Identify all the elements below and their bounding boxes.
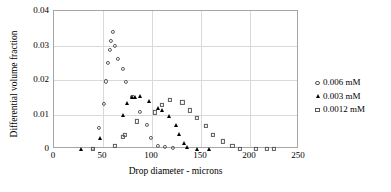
data-point [91,147,95,151]
data-point [133,95,137,99]
data-point [79,147,83,151]
gridline-vertical [250,11,251,147]
y-axis-title: Differential volume fraction [9,14,19,154]
gridline-vertical [201,11,202,147]
data-point [156,143,160,147]
scatter-chart: 00.010.020.030.04 050100150200250 Drop d… [0,0,391,192]
data-point [220,139,224,143]
data-point [170,146,174,150]
data-point [113,144,117,148]
data-point [121,113,125,117]
data-point [180,100,184,104]
data-point [168,98,172,102]
data-point [271,147,275,151]
data-point [160,103,164,107]
data-point [108,48,112,52]
chart-legend: 0.006 mM0.003 mM0.0012 mM [312,76,365,117]
data-point [125,101,129,105]
x-axis-tick-label: 150 [193,151,207,160]
data-point [185,145,189,149]
legend-item[interactable]: 0.006 mM [312,76,365,90]
legend-item-label: 0.006 mM [323,76,361,90]
data-point [123,80,127,84]
data-point [153,110,157,114]
data-point [174,123,178,127]
gridline-horizontal [54,46,297,47]
data-point [167,114,171,118]
x-axis-tick-label: 200 [242,151,256,160]
data-point [147,99,151,103]
legend-item-label: 0.003 mM [323,90,361,104]
data-point [177,132,181,136]
data-point [163,145,167,149]
data-point [230,144,234,148]
data-point [138,94,142,98]
data-point [98,136,102,140]
x-axis-tick-label: 50 [98,151,107,160]
data-point [111,30,115,34]
data-point [116,57,120,61]
data-point [135,119,139,123]
data-point [122,133,126,137]
data-point [102,102,106,106]
data-point [211,133,215,137]
x-axis-tick-label: 100 [144,151,158,160]
legend-item[interactable]: 0.0012 mM [312,103,365,117]
data-point [138,110,142,114]
x-axis-tick-label: 250 [291,151,305,160]
data-point [113,44,117,48]
plot-area [53,10,298,148]
data-point [97,126,101,130]
y-axis-tick-label: 0.04 [33,6,49,15]
gridline-horizontal [54,115,297,116]
gridline-vertical [152,11,153,147]
data-point [109,39,113,43]
y-axis-tick-label: 0.02 [33,75,49,84]
data-point [104,79,108,83]
data-point [207,147,211,151]
data-point [160,108,164,112]
legend-item-label: 0.0012 mM [323,103,365,117]
data-point [106,61,110,65]
data-point [145,123,149,127]
data-point [188,108,192,112]
y-axis-tick-label: 0 [45,144,50,153]
legend-item[interactable]: 0.003 mM [312,90,365,104]
data-point [195,116,199,120]
filled-triangle-icon [312,94,323,98]
y-axis-tick-label: 0.03 [33,40,49,49]
open-square-icon [312,108,323,112]
gridline-horizontal [54,80,297,81]
data-point [121,67,125,71]
y-axis-tick-label: 0.01 [33,109,49,118]
x-axis-tick-label: 0 [51,151,56,160]
x-axis-title: Drop diameter - microns [53,166,298,176]
data-point [204,124,208,128]
data-point [265,147,269,151]
open-circle-icon [312,81,323,85]
